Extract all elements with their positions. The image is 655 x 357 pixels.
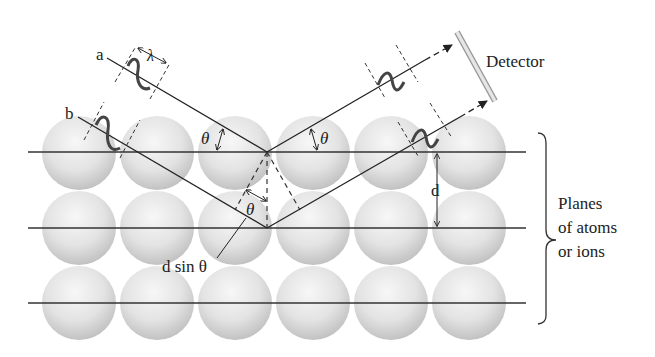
theta-label-incident: θ xyxy=(201,129,209,148)
planes-label-2: of atoms xyxy=(558,218,617,237)
spacing-label: d xyxy=(431,181,440,200)
atom-row-1 xyxy=(42,116,506,190)
d-sin-theta-label: d sin θ xyxy=(162,257,207,276)
planes-label-3: or ions xyxy=(558,242,605,261)
planes-brace xyxy=(538,133,556,324)
detector-label: Detector xyxy=(486,52,545,71)
ray-a-label: a xyxy=(96,45,104,64)
bragg-diagram: a b λ θ θ θ d sin θ d Detector Planes of… xyxy=(0,0,655,357)
wavelength-label: λ xyxy=(146,47,154,64)
planes-label-1: Planes xyxy=(558,194,602,213)
theta-label-inner: θ xyxy=(246,200,254,219)
theta-label-reflected: θ xyxy=(320,129,328,148)
ray-b-label: b xyxy=(65,104,74,123)
